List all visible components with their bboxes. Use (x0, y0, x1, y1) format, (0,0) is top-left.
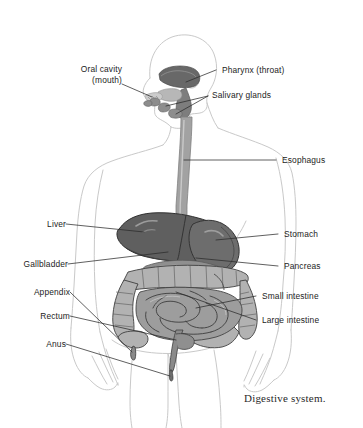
label-liver: Liver (22, 219, 66, 230)
label-oral-cavity-line2: (mouth) (46, 75, 122, 86)
label-oral-cavity-line1: Oral cavity (46, 64, 122, 75)
anus-organ (169, 370, 173, 381)
esophagus-organ (176, 117, 192, 220)
leader-oral-cavity (122, 84, 152, 97)
label-esophagus: Esophagus (282, 155, 325, 166)
label-rectum: Rectum (16, 311, 70, 322)
label-salivary-glands: Salivary glands (212, 90, 271, 101)
pharynx-organ (144, 66, 200, 118)
label-appendix: Appendix (10, 287, 70, 298)
label-anus: Anus (26, 339, 66, 350)
leader-anus (66, 344, 170, 376)
label-small-intestine: Small intestine (262, 291, 319, 302)
appendix-organ (131, 346, 136, 360)
label-large-intestine: Large intestine (262, 315, 319, 326)
label-stomach: Stomach (284, 229, 318, 240)
digestive-system-figure: Oral cavity (mouth) Pharynx (throat) Sal… (0, 0, 363, 428)
small-intestine-organ (136, 287, 242, 341)
label-pharynx: Pharynx (throat) (222, 65, 284, 76)
figure-caption: Digestive system. (244, 392, 326, 404)
label-oral-cavity: Oral cavity (mouth) (46, 64, 122, 85)
label-gallbladder: Gallbladder (0, 259, 68, 270)
label-pancreas: Pancreas (284, 261, 321, 272)
